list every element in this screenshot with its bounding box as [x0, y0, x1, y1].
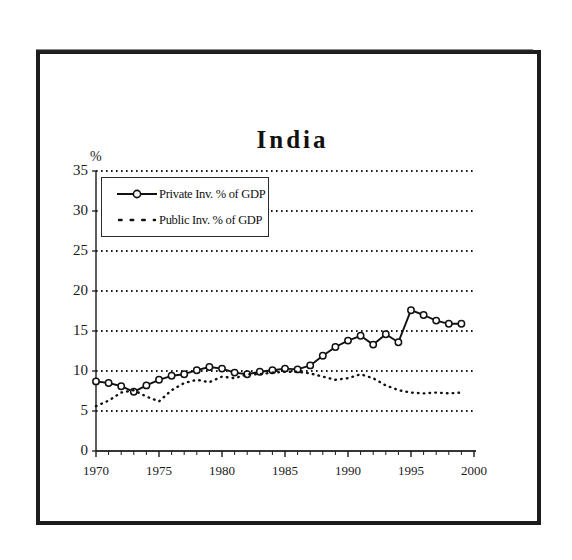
y-tick-label-5: 5: [54, 402, 88, 419]
legend-key-public-icon: [115, 213, 159, 227]
data-point: [206, 364, 212, 370]
data-point: [357, 333, 363, 339]
series-line-private: [96, 310, 461, 392]
data-point: [395, 339, 401, 345]
y-tick-label-10: 10: [54, 362, 88, 379]
x-tick-label-1990: 1990: [323, 463, 373, 479]
data-point: [143, 382, 149, 388]
chart-svg: [40, 54, 545, 529]
legend-item-public: Public Inv. % of GDP: [102, 209, 270, 231]
scanned-page: India % 05101520253035 19701975198019851…: [0, 0, 572, 560]
y-tick-label-20: 20: [54, 282, 88, 299]
data-point: [383, 331, 389, 337]
x-tick-label-2000: 2000: [449, 463, 499, 479]
data-point: [93, 378, 99, 384]
x-tick-label-1975: 1975: [134, 463, 184, 479]
legend-item-private: Private Inv. % of GDP: [102, 183, 270, 205]
y-axis-unit-label: %: [90, 149, 102, 165]
data-point: [231, 369, 237, 375]
chart-legend: Private Inv. % of GDP Public Inv. % of G…: [101, 177, 269, 237]
data-point: [458, 321, 464, 327]
x-tick-label-1980: 1980: [197, 463, 247, 479]
chart-plot-area: % 05101520253035 19701975198019851990199…: [40, 54, 545, 529]
legend-key-private-icon: [115, 187, 159, 201]
legend-label-public: Public Inv. % of GDP: [159, 213, 262, 228]
series-line-public: [96, 372, 461, 406]
data-point: [370, 341, 376, 347]
data-point: [181, 371, 187, 377]
data-point: [105, 380, 111, 386]
y-tick-label-0: 0: [54, 442, 88, 459]
y-tick-label-35: 35: [54, 162, 88, 179]
x-tick-label-1985: 1985: [260, 463, 310, 479]
y-tick-label-15: 15: [54, 322, 88, 339]
data-point: [332, 344, 338, 350]
legend-label-private: Private Inv. % of GDP: [159, 187, 265, 202]
data-point: [219, 365, 225, 371]
data-point: [433, 317, 439, 323]
x-tick-label-1970: 1970: [71, 463, 121, 479]
y-tick-label-30: 30: [54, 202, 88, 219]
y-tick-label-25: 25: [54, 242, 88, 259]
data-point: [408, 307, 414, 313]
data-point: [446, 321, 452, 327]
data-point: [320, 353, 326, 359]
data-point: [345, 337, 351, 343]
x-tick-label-1995: 1995: [386, 463, 436, 479]
data-point: [156, 377, 162, 383]
data-point: [118, 383, 124, 389]
data-point: [168, 373, 174, 379]
figure-border: India % 05101520253035 19701975198019851…: [36, 50, 541, 525]
data-point: [307, 362, 313, 368]
data-point: [194, 367, 200, 373]
data-point: [420, 312, 426, 318]
